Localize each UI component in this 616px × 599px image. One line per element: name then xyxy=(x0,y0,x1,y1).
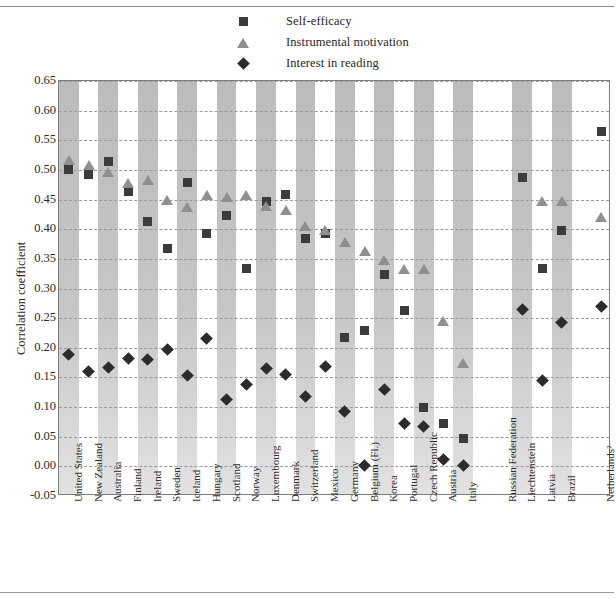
data-point-diamond xyxy=(595,300,608,313)
x-axis-tick-label: Russian Federation xyxy=(506,417,518,502)
x-axis-tick-label: Czech Republic xyxy=(427,432,439,502)
data-point-triangle xyxy=(122,178,134,188)
column-band xyxy=(138,81,158,494)
column-band xyxy=(98,81,118,494)
x-axis-tick-label: Belgium (Fl.) xyxy=(368,442,380,502)
column-band xyxy=(453,81,473,494)
x-axis-tick-label: Korea xyxy=(387,475,399,502)
x-axis-tick-label: Portugal xyxy=(407,465,419,502)
gridline xyxy=(59,407,609,408)
x-axis-tick-label: Switzerland xyxy=(308,449,320,502)
top-divider xyxy=(0,6,614,7)
data-point-diamond xyxy=(161,343,174,356)
data-point-diamond xyxy=(82,365,95,378)
gridline xyxy=(59,111,609,112)
data-point-triangle xyxy=(280,205,292,215)
data-point-square xyxy=(597,127,606,136)
data-point-square xyxy=(538,264,547,273)
data-point-square xyxy=(419,403,428,412)
column-band xyxy=(59,81,79,494)
x-axis-tick-label: Denmark xyxy=(289,461,301,502)
x-axis-tick-label: Hungary xyxy=(210,464,222,503)
bottom-divider xyxy=(0,592,614,593)
gridline xyxy=(59,377,609,378)
square-marker-icon xyxy=(228,17,258,26)
diamond-marker-icon xyxy=(228,59,258,68)
y-axis-tick-labels: 0.650.600.550.500.450.400.350.300.250.20… xyxy=(0,0,56,599)
y-axis-tick-label: 0.50 xyxy=(4,161,56,176)
column-band xyxy=(217,81,237,494)
data-point-square xyxy=(400,306,409,315)
data-point-triangle xyxy=(181,202,193,212)
gridline xyxy=(59,140,609,141)
x-axis-tick-label: United States xyxy=(72,443,84,502)
data-point-square xyxy=(64,165,73,174)
data-point-triangle xyxy=(556,196,568,206)
data-point-triangle xyxy=(102,167,114,177)
data-point-triangle xyxy=(260,201,272,211)
y-axis-tick-label: 0.15 xyxy=(4,369,56,384)
data-point-square xyxy=(360,326,369,335)
column-band xyxy=(177,81,197,494)
data-point-triangle xyxy=(437,316,449,326)
legend-item-instrumental-motivation: Instrumental motivation xyxy=(228,35,409,50)
y-axis-tick-label: 0.20 xyxy=(4,339,56,354)
data-point-square xyxy=(143,217,152,226)
y-axis-tick-label: 0.25 xyxy=(4,310,56,325)
x-axis-tick-label: Iceland xyxy=(190,470,202,502)
data-point-square xyxy=(202,229,211,238)
column-band xyxy=(374,81,394,494)
legend-item-interest-in-reading: Interest in reading xyxy=(228,56,409,71)
x-axis-tick-label: New Zealand xyxy=(92,443,104,502)
x-axis-tick-label: Italy xyxy=(466,482,478,502)
data-point-diamond xyxy=(122,352,135,365)
y-axis-tick-label: 0.00 xyxy=(4,458,56,473)
data-point-square xyxy=(281,190,290,199)
data-point-diamond xyxy=(319,360,332,373)
column-band xyxy=(552,81,572,494)
legend-item-self-efficacy: Self-efficacy xyxy=(228,14,409,29)
data-point-square xyxy=(380,270,389,279)
data-point-triangle xyxy=(595,212,607,222)
data-point-square xyxy=(124,187,133,196)
data-point-square xyxy=(163,244,172,253)
x-axis-tick-label: Liechtenstein xyxy=(525,443,537,502)
x-axis-tick-label: Austria xyxy=(446,470,458,502)
data-point-triangle xyxy=(63,155,75,165)
data-point-triangle xyxy=(339,237,351,247)
gridline xyxy=(59,289,609,290)
data-point-triangle xyxy=(221,192,233,202)
data-point-triangle xyxy=(240,190,252,200)
data-point-diamond xyxy=(536,374,549,387)
gridline xyxy=(59,170,609,171)
x-axis-tick-label: Sweden xyxy=(170,467,182,502)
x-axis-tick-label: Netherlands² xyxy=(604,446,616,502)
data-point-diamond xyxy=(279,368,292,381)
gridline xyxy=(59,348,609,349)
data-point-triangle xyxy=(319,225,331,235)
x-axis-tick-label: Ireland xyxy=(151,471,163,502)
data-point-square xyxy=(104,157,113,166)
data-point-square xyxy=(340,333,349,342)
legend-label: Interest in reading xyxy=(286,56,379,71)
gridline xyxy=(59,259,609,260)
y-axis-tick-label: 0.60 xyxy=(4,102,56,117)
x-axis-tick-label: Norway xyxy=(249,467,261,502)
gridline xyxy=(59,318,609,319)
y-axis-tick-label: -0.05 xyxy=(4,488,56,503)
data-point-triangle xyxy=(457,358,469,368)
data-point-diamond xyxy=(240,378,253,391)
y-axis-tick-label: 0.40 xyxy=(4,221,56,236)
column-band xyxy=(256,81,276,494)
legend-label: Instrumental motivation xyxy=(286,35,409,50)
column-band xyxy=(335,81,355,494)
x-axis-tick-label: Latvia xyxy=(545,474,557,502)
x-axis-tick-label: Finland xyxy=(131,468,143,502)
data-point-triangle xyxy=(398,264,410,274)
data-point-square xyxy=(518,173,527,182)
plot-area xyxy=(58,80,610,495)
x-axis-tick-label: Scotland xyxy=(230,464,242,503)
data-point-square xyxy=(183,178,192,187)
y-axis-tick-label: 0.10 xyxy=(4,399,56,414)
